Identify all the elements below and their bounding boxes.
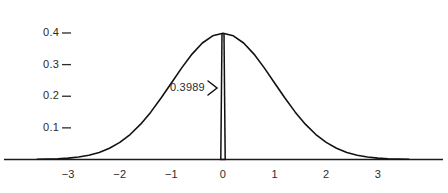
normal-distribution-chart: 0.10.20.30.4 −3−2−10123 0.3989	[0, 0, 448, 193]
x-axis-tick-label: 3	[358, 169, 398, 180]
y-axis-ticks	[62, 33, 71, 128]
x-axis-tick-label: 1	[255, 169, 295, 180]
y-axis-tick-label: 0.2	[43, 90, 59, 101]
x-axis-tick-label: −2	[100, 169, 140, 180]
normal-density-curve	[37, 33, 409, 159]
x-axis-tick-label: 2	[306, 169, 346, 180]
callout-arrowhead-icon	[208, 81, 217, 95]
peak-value-label: 0.3989	[170, 82, 205, 93]
x-axis-tick-label: −3	[48, 169, 88, 180]
y-axis-tick-label: 0.3	[43, 59, 59, 70]
y-axis-tick-label: 0.1	[43, 122, 59, 133]
y-axis-tick-label: 0.4	[43, 27, 59, 38]
x-axis-tick-label: 0	[203, 169, 243, 180]
peak-vertical-segment	[220, 33, 226, 159]
x-axis-tick-label: −1	[151, 169, 191, 180]
chart-canvas	[0, 0, 448, 193]
